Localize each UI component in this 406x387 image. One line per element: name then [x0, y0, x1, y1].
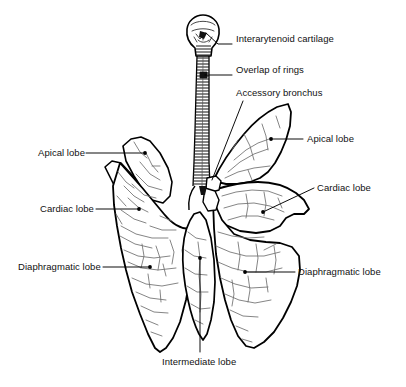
label-interarytenoid-cartilage: Interarytenoid cartilage [236, 33, 334, 44]
right-cardiac-lobe-outline [214, 182, 309, 233]
marker-cardiac-lobe-right [261, 210, 265, 214]
larynx-group [187, 15, 219, 56]
intermediate-lobe-group [183, 212, 215, 340]
label-intermediate-lobe: Intermediate lobe [162, 356, 236, 367]
marker-diaphragmatic-lobe-left [148, 265, 152, 269]
marker-apical-lobe-right [269, 137, 273, 141]
label-apical-lobe-right: Apical lobe [307, 133, 354, 144]
marker-apical-lobe-left [143, 151, 147, 155]
left-lung-group [105, 137, 196, 352]
label-overlap-of-rings: Overlap of rings [236, 64, 304, 75]
trachea-group [189, 56, 221, 211]
label-diaphragmatic-lobe-right: Diaphragmatic lobe [298, 266, 381, 277]
marker-cardiac-lobe-left [137, 207, 141, 211]
label-cardiac-lobe-right: Cardiac lobe [317, 182, 371, 193]
lung-diagram-svg [0, 0, 406, 387]
marker-diaphragmatic-lobe-right [243, 270, 247, 274]
label-diaphragmatic-lobe-left: Diaphragmatic lobe [18, 261, 101, 272]
label-accessory-bronchus: Accessory bronchus [236, 87, 322, 98]
bronchus-left-branch [189, 186, 195, 210]
right-apical-lobe-outline [213, 104, 291, 184]
lung-anatomy-figure: Interarytenoid cartilage Overlap of ring… [0, 0, 406, 387]
label-cardiac-lobe-left: Cardiac lobe [40, 203, 94, 214]
label-apical-lobe-left: Apical lobe [38, 147, 85, 158]
marker-intermediate-lobe [198, 256, 202, 260]
